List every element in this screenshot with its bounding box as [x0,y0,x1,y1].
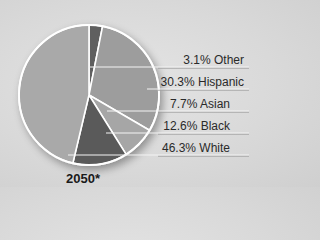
pie-slices [19,25,159,165]
label-other: 3.1% Other [172,53,244,67]
label-asian: 7.7% Asian [160,97,230,111]
label-white: 46.3% White [150,141,230,155]
pie-chart [0,0,264,187]
chart-caption-year: 2050* [66,171,100,186]
pie-slice-white [19,25,89,163]
label-hispanic: 30.3% Hispanic [152,75,244,89]
label-black: 12.6% Black [152,119,230,133]
